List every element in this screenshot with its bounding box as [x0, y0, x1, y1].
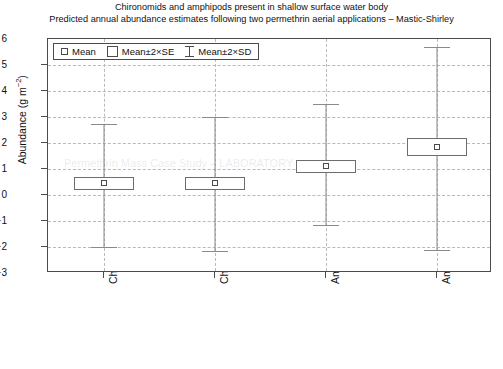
mean-marker	[101, 180, 107, 186]
sd-whisker-cap-lower	[424, 250, 450, 251]
x-tick-mark	[214, 272, 215, 278]
mean-square-icon	[61, 48, 68, 55]
y-tick-label: 0	[0, 189, 7, 200]
whisker-icon	[185, 46, 194, 57]
legend-label-mean: Mean	[72, 46, 96, 57]
y-tick-label: 2	[0, 137, 7, 148]
y-axis-label-tail: )	[16, 75, 28, 79]
sd-whisker-cap-lower	[313, 225, 339, 226]
box-icon	[107, 46, 118, 57]
x-tick-mark	[103, 272, 104, 278]
legend-label-sd: Mean±2×SD	[198, 46, 251, 57]
chart-subtitle: Predicted annual abundance estimates fol…	[0, 14, 503, 26]
legend-item-se: Mean±2×SE	[107, 46, 174, 57]
chart-title-block: Chironomids and amphipods present in sha…	[0, 2, 503, 25]
y-tick-label: −2	[0, 241, 7, 252]
sd-whisker-cap-lower	[202, 251, 228, 252]
y-tick-label: 4	[0, 85, 7, 96]
y-tick-label: 6	[0, 33, 7, 44]
chart-title: Chironomids and amphipods present in sha…	[0, 2, 503, 14]
gridline-horizontal	[48, 195, 490, 196]
y-tick-label: −1	[0, 215, 7, 226]
ghost-text: Permethrin Mass Case Study – LABORATORY	[64, 157, 293, 169]
gridline-horizontal	[48, 65, 490, 66]
gridline-horizontal	[48, 169, 490, 170]
sd-whisker-cap-lower	[91, 247, 117, 248]
legend-item-sd: Mean±2×SD	[185, 46, 251, 57]
sd-whisker-cap-upper	[424, 47, 450, 48]
y-tick-label: 5	[0, 59, 7, 70]
x-tick-mark	[325, 272, 326, 278]
gridline-horizontal	[48, 117, 490, 118]
mean-marker	[434, 144, 440, 150]
plot-area: Permethrin Mass Case Study – LABORATORY	[47, 38, 491, 272]
gridline-horizontal	[48, 91, 490, 92]
sd-whisker-cap-upper	[313, 104, 339, 105]
x-tick-mark	[436, 272, 437, 278]
y-tick-label: 1	[0, 163, 7, 174]
y-axis-label: Abundance (g m−2)	[14, 35, 28, 205]
chart-legend: Mean Mean±2×SE Mean±2×SD	[53, 43, 259, 60]
gridline-horizontal	[48, 221, 490, 222]
y-axis-label-text: Abundance (g m	[16, 87, 28, 164]
y-tick-label: 3	[0, 111, 7, 122]
mean-marker	[323, 163, 329, 169]
sd-whisker-cap-upper	[91, 124, 117, 125]
y-axis-label-exponent: −2	[14, 79, 23, 88]
legend-item-mean: Mean	[61, 46, 96, 57]
legend-label-se: Mean±2×SE	[122, 46, 174, 57]
y-tick-label: −3	[0, 267, 7, 278]
mean-marker	[212, 180, 218, 186]
chart-figure: Chironomids and amphipods present in sha…	[0, 0, 503, 369]
sd-whisker-cap-upper	[202, 117, 228, 118]
